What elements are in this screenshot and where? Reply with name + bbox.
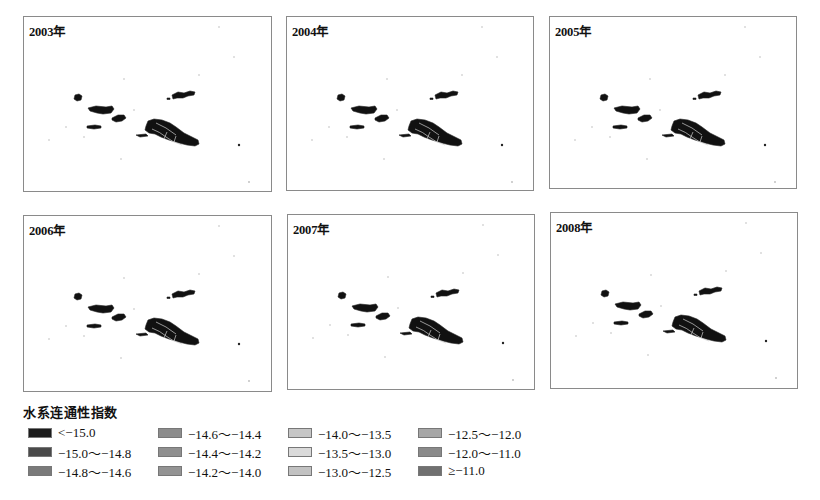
legend-label: −13.5～−13.0 — [318, 443, 391, 462]
water-connectivity-map — [551, 213, 799, 390]
legend-item: −13.5～−13.0 — [288, 446, 391, 458]
legend-item: −14.6～−14.4 — [158, 427, 261, 439]
panel-year-label: 2008年 — [556, 217, 593, 236]
legend-swatch — [158, 466, 182, 476]
legend-swatch — [418, 447, 442, 457]
legend-item: −14.4～−14.2 — [158, 446, 261, 458]
legend-item: −14.0～−13.5 — [288, 427, 391, 439]
legend-swatch — [418, 466, 442, 476]
water-connectivity-map — [24, 216, 273, 393]
legend-item: ≥−11.0 — [418, 465, 485, 477]
water-connectivity-map — [24, 17, 273, 193]
legend-label: −14.8～−14.6 — [58, 462, 131, 481]
map-panel: 2006年 — [23, 215, 272, 392]
legend-swatch — [28, 428, 52, 438]
legend-swatch — [28, 447, 52, 457]
legend-label: −14.4～−14.2 — [188, 443, 261, 462]
legend-swatch — [28, 466, 52, 476]
panel-year-label: 2003年 — [29, 21, 66, 40]
legend-item: −12.5～−12.0 — [418, 427, 521, 439]
water-connectivity-map — [550, 17, 798, 190]
map-panel: 2004年 — [286, 16, 534, 191]
map-panel: 2008年 — [550, 212, 798, 389]
legend-item: −15.0～−14.8 — [28, 446, 131, 458]
map-panel: 2007年 — [287, 214, 535, 390]
legend-label: −14.2～−14.0 — [188, 462, 261, 481]
legend-item: −14.2～−14.0 — [158, 465, 261, 477]
legend-label: −14.6～−14.4 — [188, 424, 261, 443]
legend-label: −12.5～−12.0 — [448, 424, 521, 443]
legend-label: <−15.0 — [58, 425, 95, 441]
panel-year-label: 2006年 — [29, 220, 66, 239]
map-panel: 2003年 — [23, 16, 272, 192]
panel-year-label: 2007年 — [293, 219, 330, 238]
legend-item: −14.8～−14.6 — [28, 465, 131, 477]
water-connectivity-map — [287, 17, 535, 192]
legend-swatch — [288, 428, 312, 438]
panel-year-label: 2005年 — [555, 21, 592, 40]
legend-swatch — [288, 466, 312, 476]
legend-swatch — [418, 428, 442, 438]
map-panel: 2005年 — [549, 16, 797, 189]
legend-title: 水系连通性指数 — [23, 402, 118, 421]
legend-label: ≥−11.0 — [448, 463, 485, 479]
legend-swatch — [158, 447, 182, 457]
legend-label: −15.0～−14.8 — [58, 443, 131, 462]
panel-year-label: 2004年 — [292, 21, 329, 40]
legend-label: −14.0～−13.5 — [318, 424, 391, 443]
legend-label: −12.0～−11.0 — [448, 443, 521, 462]
legend-label: −13.0～−12.5 — [318, 462, 391, 481]
legend-swatch — [288, 447, 312, 457]
legend-item: <−15.0 — [28, 427, 95, 439]
legend-swatch — [158, 428, 182, 438]
legend-item: −12.0～−11.0 — [418, 446, 521, 458]
water-connectivity-map — [288, 215, 536, 391]
legend-item: −13.0～−12.5 — [288, 465, 391, 477]
